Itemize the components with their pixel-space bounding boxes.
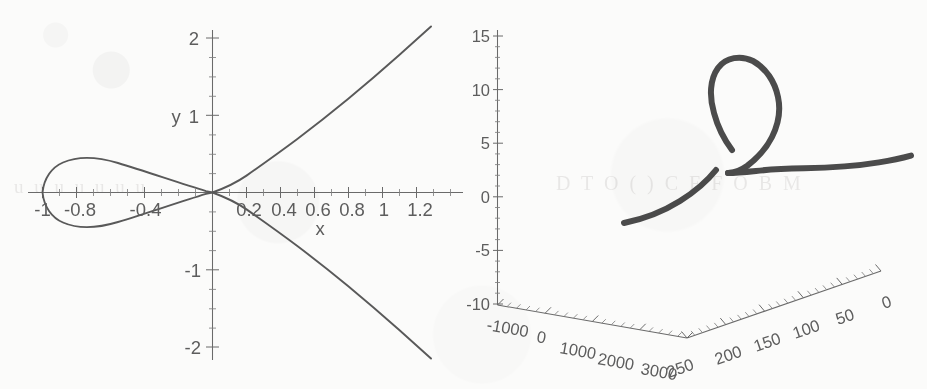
y-tick-label-200: 200 bbox=[712, 342, 744, 368]
y-tick-label-50: 50 bbox=[833, 305, 856, 328]
z-tick-label-5: 5 bbox=[481, 134, 490, 152]
nodal-cubic-upper-branch bbox=[213, 27, 432, 193]
y-tick-label--2: -2 bbox=[185, 337, 201, 358]
space-curve-loop bbox=[711, 58, 779, 173]
y-axis-ticks-3d bbox=[682, 265, 882, 339]
x-tick-label-2000: 2000 bbox=[596, 349, 635, 373]
z-tick-label-15: 15 bbox=[472, 27, 490, 45]
y-tick-label-100: 100 bbox=[790, 316, 822, 342]
y-tick-label-2: 2 bbox=[189, 28, 199, 49]
x-tick-label-0: 0 bbox=[535, 327, 547, 346]
z-tick-label-10: 10 bbox=[472, 81, 490, 99]
space-curve-tail bbox=[624, 170, 716, 223]
y-axis-name-label: y bbox=[171, 106, 181, 127]
right-plot-panel: 15 10 5 0 -5 -10 -1000 0 1000 2000 3000 … bbox=[464, 0, 927, 389]
y-tick-label-0: 0 bbox=[879, 292, 894, 312]
x-axis-name-label: x bbox=[315, 218, 325, 239]
x-tick-label--1000: -1000 bbox=[485, 315, 530, 340]
x-tick-label-1.2: 1.2 bbox=[407, 199, 433, 220]
figure-container: u u u u u u u D T O ( ) C F F O B M bbox=[0, 0, 927, 389]
y-axis-line-3d bbox=[687, 271, 881, 338]
x-tick-label-0.4: 0.4 bbox=[271, 199, 297, 220]
x-tick-label-0.6: 0.6 bbox=[305, 199, 331, 220]
y-tick-label--1: -1 bbox=[185, 260, 201, 281]
x-tick-label--0.4: -0.4 bbox=[130, 199, 162, 220]
x-tick-label-1: 1 bbox=[379, 199, 389, 220]
z-tick-label--5: -5 bbox=[475, 241, 490, 259]
y-tick-label-1: 1 bbox=[189, 106, 199, 127]
y-tick-label-250: 250 bbox=[664, 355, 696, 381]
x-tick-label-0.2: 0.2 bbox=[236, 199, 262, 220]
left-plot-panel: -1 -0.8 -0.4 0.2 0.4 0.6 0.8 1 1.2 2 1 -… bbox=[0, 0, 464, 389]
x-tick-label--0.8: -0.8 bbox=[64, 199, 96, 220]
right-plot-svg: 15 10 5 0 -5 -10 -1000 0 1000 2000 3000 … bbox=[464, 0, 927, 389]
left-plot-svg: -1 -0.8 -0.4 0.2 0.4 0.6 0.8 1 1.2 2 1 -… bbox=[0, 0, 464, 389]
x-tick-label-1000: 1000 bbox=[558, 338, 597, 362]
y-tick-label-150: 150 bbox=[751, 329, 783, 355]
z-tick-label-0: 0 bbox=[481, 188, 490, 206]
x-tick-label--1: -1 bbox=[34, 199, 50, 220]
x-tick-label-0.8: 0.8 bbox=[339, 199, 365, 220]
z-tick-label--10: -10 bbox=[466, 295, 490, 313]
